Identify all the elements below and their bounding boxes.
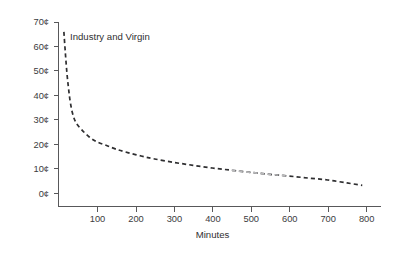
chart-plot-svg: 70¢ 60¢ 50¢ 40¢ 30¢ 20¢ 10¢ 0¢ 100 200 3… xyxy=(0,0,407,254)
y-tick-label-30: 30¢ xyxy=(33,115,49,125)
x-tick-label-700: 700 xyxy=(320,214,336,224)
x-tick-label-800: 800 xyxy=(359,214,375,224)
chart-container: 70¢ 60¢ 50¢ 40¢ 30¢ 20¢ 10¢ 0¢ 100 200 3… xyxy=(0,0,407,254)
series-line-industry-and-virgin xyxy=(64,32,362,186)
x-axis-tick-labels: 100 200 300 400 500 600 700 800 xyxy=(90,214,375,224)
x-axis-title: Minutes xyxy=(196,229,230,240)
series-annotation-label: Industry and Virgin xyxy=(70,31,150,42)
y-axis-tick-labels: 70¢ 60¢ 50¢ 40¢ 30¢ 20¢ 10¢ 0¢ xyxy=(33,17,49,198)
y-tick-label-20: 20¢ xyxy=(33,140,49,150)
x-tick-label-100: 100 xyxy=(90,214,106,224)
x-tick-label-200: 200 xyxy=(128,214,144,224)
x-tick-label-600: 600 xyxy=(282,214,298,224)
x-tick-label-500: 500 xyxy=(244,214,260,224)
y-tick-label-10: 10¢ xyxy=(33,164,49,174)
y-axis-ticks xyxy=(54,22,59,193)
series-line-faded-segment xyxy=(232,170,290,176)
x-tick-label-300: 300 xyxy=(167,214,183,224)
y-tick-label-40: 40¢ xyxy=(33,91,49,101)
y-tick-label-0: 0¢ xyxy=(39,189,49,199)
y-tick-label-70: 70¢ xyxy=(33,17,49,27)
y-tick-label-50: 50¢ xyxy=(33,66,49,76)
y-tick-label-60: 60¢ xyxy=(33,42,49,52)
x-tick-label-400: 400 xyxy=(205,214,221,224)
x-axis-ticks xyxy=(98,207,367,212)
